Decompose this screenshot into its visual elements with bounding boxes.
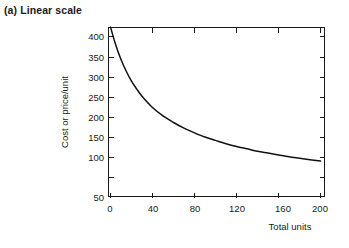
x-tick-label: 200: [312, 203, 328, 214]
y-axis-ticks-right: [320, 37, 325, 178]
y-tick-label: 100: [88, 152, 104, 163]
plot-frame: [109, 28, 325, 197]
y-axis-ticks-left: [109, 37, 114, 178]
x-axis-ticks-top: [153, 28, 321, 33]
x-tick-label: 80: [190, 203, 201, 214]
x-tick-label: 160: [275, 203, 291, 214]
y-tick-label: 50: [93, 192, 104, 203]
x-tick-label: 0: [107, 203, 112, 214]
y-axis-title: Cost or price/unit: [59, 76, 70, 148]
chart-canvas: 400 350 300 250 200 150 100 50 0 40 80 1…: [0, 0, 349, 248]
y-tick-label: 300: [88, 72, 104, 83]
y-tick-label: 400: [88, 31, 104, 42]
y-tick-label: 250: [88, 92, 104, 103]
experience-curve-line: [111, 27, 321, 161]
figure-panel: (a) Linear scale: [0, 0, 349, 248]
y-tick-labels: 400 350 300 250 200 150 100 50: [88, 31, 104, 203]
y-tick-label: 200: [88, 112, 104, 123]
y-tick-label: 350: [88, 52, 104, 63]
x-tick-labels: 0 40 80 120 160 200: [107, 203, 328, 214]
x-axis-title: Total units: [269, 221, 312, 232]
y-tick-label: 150: [88, 132, 104, 143]
x-tick-label: 40: [148, 203, 159, 214]
x-tick-label: 120: [229, 203, 245, 214]
